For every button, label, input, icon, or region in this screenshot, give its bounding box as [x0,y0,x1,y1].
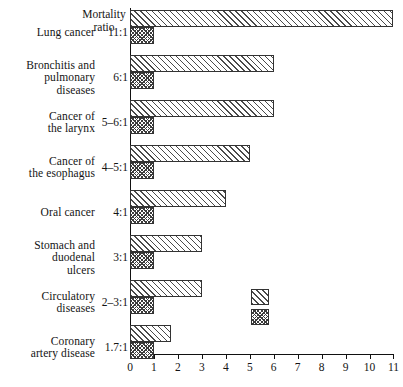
bar-hatched-3 [130,145,250,162]
bar-hatched-7 [130,325,171,342]
x-tick-label-10: 10 [359,361,381,373]
bar-checkered-1 [130,72,154,89]
bar-checkered-2 [130,117,154,134]
bar-checkered-6 [130,297,154,314]
category-label-3: Cancer of the esophagus [29,155,95,180]
x-tick-label-5: 5 [239,361,261,373]
ratio-label-6: 2–3:1 [88,296,128,309]
category-label-7: Coronary artery disease [31,335,95,360]
category-label-4: Oral cancer [41,206,95,219]
category-label-5: Stomach and duodenal ulcers [34,239,95,277]
ratio-label-4: 4:1 [88,206,128,219]
x-tick-label-7: 7 [287,361,309,373]
category-label-1: Bronchitis and pulmonary diseases [26,59,95,97]
bar-hatched-0 [130,10,393,27]
x-tick-label-3: 3 [191,361,213,373]
x-tick-9 [346,354,347,359]
x-tick-8 [322,354,323,359]
x-tick-11 [393,354,394,359]
x-tick-7 [298,354,299,359]
x-tick-6 [274,354,275,359]
x-tick-label-4: 4 [215,361,237,373]
bar-checkered-3 [130,162,154,179]
bar-checkered-4 [130,207,154,224]
bar-checkered-5 [130,252,154,269]
ratio-label-0: 11:1 [88,26,128,39]
bar-hatched-6 [130,280,202,297]
ratio-label-1: 6:1 [88,71,128,84]
x-tick-label-8: 8 [311,361,333,373]
x-tick-10 [370,354,371,359]
bar-hatched-1 [130,55,274,72]
x-tick-label-11: 11 [382,361,403,373]
bar-hatched-4 [130,190,226,207]
x-tick-2 [178,354,179,359]
x-tick-label-1: 1 [143,361,165,373]
x-tick-label-9: 9 [335,361,357,373]
x-tick-3 [202,354,203,359]
x-axis-line [130,354,394,355]
legend-swatch-hatched [251,289,269,305]
category-label-0: Lung cancer [37,26,95,39]
bar-checkered-7 [130,342,154,359]
x-tick-label-0: 0 [119,361,141,373]
bar-hatched-2 [130,100,274,117]
x-tick-label-6: 6 [263,361,285,373]
x-tick-5 [250,354,251,359]
x-tick-4 [226,354,227,359]
bar-hatched-5 [130,235,202,252]
ratio-label-7: 1.7:1 [88,341,128,354]
ratio-label-3: 4–5:1 [88,161,128,174]
x-tick-label-2: 2 [167,361,189,373]
ratio-label-5: 3:1 [88,251,128,264]
legend-swatch-checkered [251,309,269,325]
x-tick-1 [154,354,155,359]
ratio-label-2: 5–6:1 [88,116,128,129]
bar-checkered-0 [130,27,154,44]
category-label-6: Circulatory diseases [42,290,95,315]
